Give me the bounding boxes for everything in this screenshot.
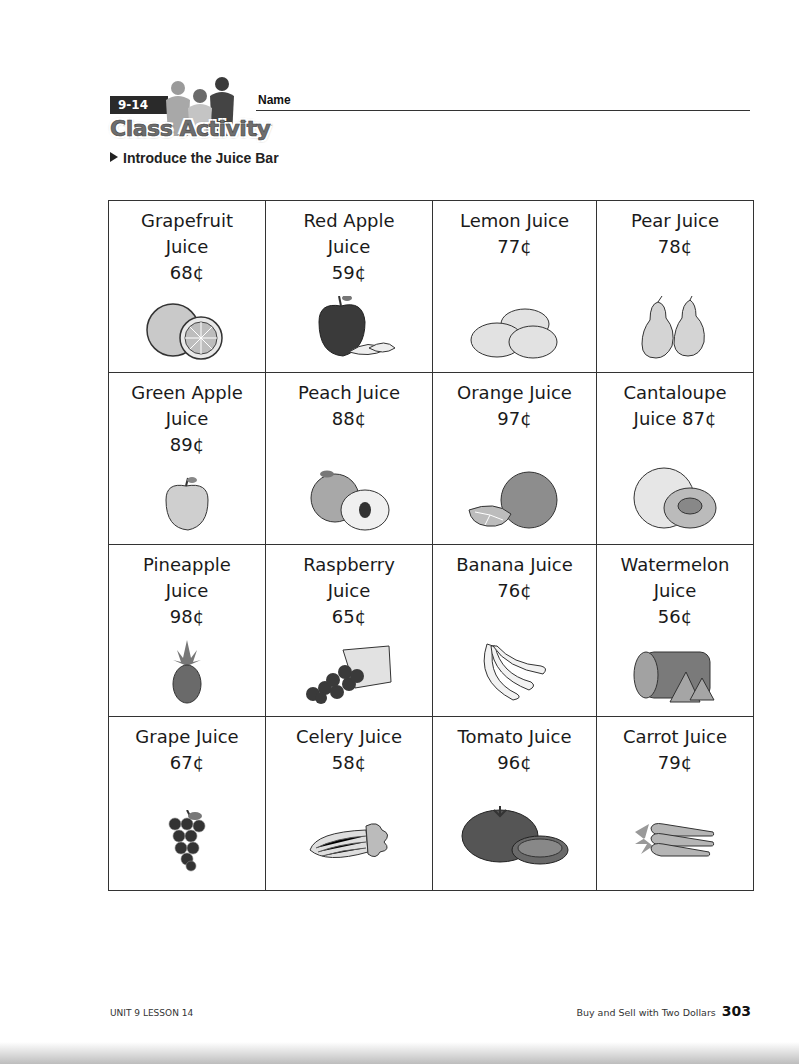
green-apple-icon <box>162 476 212 532</box>
juice-cell-peach: Peach Juice88¢ <box>266 373 433 545</box>
section-heading-text: Introduce the Juice Bar <box>123 150 279 166</box>
juice-cell-orange: Orange Juice97¢ <box>433 373 597 545</box>
pear-icon <box>640 296 710 360</box>
juice-cell-watermelon: WatermelonJuice56¢ <box>597 545 754 717</box>
page-number: 303 <box>722 1003 751 1019</box>
banana-icon <box>473 640 557 704</box>
red-apple-icon <box>299 296 399 360</box>
juice-cell-celery: Celery Juice58¢ <box>266 717 433 891</box>
pineapple-icon <box>169 640 205 704</box>
chapter-title: Buy and Sell with Two Dollars <box>576 1007 715 1018</box>
juice-cell-banana: Banana Juice76¢ <box>433 545 597 717</box>
watermelon-icon <box>630 648 720 704</box>
juice-cell-tomato: Tomato Juice96¢ <box>433 717 597 891</box>
tomato-icon <box>460 806 570 868</box>
juice-cell-green-apple: Green AppleJuice89¢ <box>109 373 266 545</box>
unit-lesson-label: UNIT 9 LESSON 14 <box>110 1008 193 1018</box>
name-label: Name <box>258 93 291 107</box>
name-entry-line[interactable] <box>256 110 750 111</box>
section-heading: Introduce the Juice Bar <box>110 150 279 166</box>
juice-cell-lemon: Lemon Juice77¢ <box>433 201 597 373</box>
grapefruit-icon <box>139 300 235 360</box>
juice-cell-pear: Pear Juice78¢ <box>597 201 754 373</box>
raspberry-icon <box>299 642 399 704</box>
carrot-icon <box>633 818 717 860</box>
lemon-icon <box>465 304 565 360</box>
juice-cell-red-apple: Red AppleJuice59¢ <box>266 201 433 373</box>
cantaloupe-icon <box>630 466 720 532</box>
page-edge-shadow <box>0 1042 799 1064</box>
juice-cell-raspberry: RaspberryJuice65¢ <box>266 545 433 717</box>
celery-icon <box>306 820 392 862</box>
juice-price-table: GrapefruitJuice68¢ Red AppleJuice59¢ Lem… <box>108 200 754 891</box>
peach-icon <box>301 470 397 532</box>
worksheet-page: 9-14 Class Activity Name Introduce the J… <box>0 0 799 1064</box>
page-footer: Buy and Sell with Two Dollars303 <box>576 1003 751 1019</box>
orange-icon <box>465 470 565 532</box>
juice-cell-pineapple: PineappleJuice98¢ <box>109 545 266 717</box>
grape-icon <box>165 810 209 872</box>
juice-cell-grape: Grape Juice67¢ <box>109 717 266 891</box>
juice-cell-cantaloupe: CantaloupeJuice 87¢ <box>597 373 754 545</box>
juice-cell-carrot: Carrot Juice79¢ <box>597 717 754 891</box>
triangle-bullet-icon <box>110 152 118 162</box>
juice-cell-grapefruit: GrapefruitJuice68¢ <box>109 201 266 373</box>
activity-title: Class Activity <box>110 116 270 141</box>
